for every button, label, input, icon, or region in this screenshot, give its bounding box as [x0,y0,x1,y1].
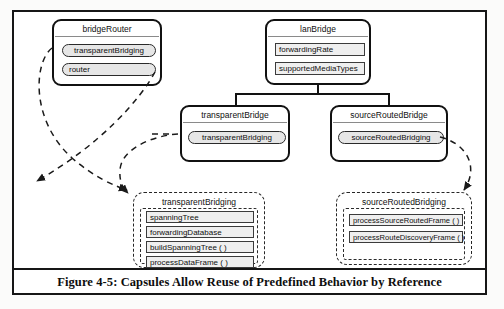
capsule-member-processSourceRoutedFrame[interactable]: processSourceRoutedFrame ( ) [349,214,463,226]
capsule-member-forwardingDatabase[interactable]: forwardingDatabase [146,226,254,238]
attribute-supportedMediaTypes[interactable]: supportedMediaTypes [275,62,365,75]
figure-page: bridgeRouter transparentBridging router … [0,0,504,309]
port-sourceRoutedBridging[interactable]: sourceRoutedBridging [338,131,444,144]
capsule-member-spanningTree[interactable]: spanningTree [146,211,254,223]
class-sourceRoutedBridge[interactable]: sourceRoutedBridge sourceRoutedBridging [330,105,448,162]
class-divider [268,36,368,37]
class-title-lanBridge: lanBridge [267,21,369,36]
capsule-member-processDataFrame[interactable]: processDataFrame ( ) [146,256,254,268]
attribute-forwardingRate[interactable]: forwardingRate [275,43,365,56]
port-transparentBridging-sub[interactable]: transparentBridging [188,131,286,144]
generalization-branch-right [388,93,390,105]
figure-caption: Figure 4-5: Capsules Allow Reuse of Pred… [12,270,487,295]
generalization-branch-left [235,93,237,105]
class-title-sourceRoutedBridge: sourceRoutedBridge [332,107,446,122]
generalization-crossbar [235,93,389,95]
class-divider [333,122,445,123]
class-transparentBridge[interactable]: transparentBridge transparentBridging [180,105,290,162]
class-title-bridgeRouter: bridgeRouter [54,21,160,36]
class-divider [183,122,287,123]
capsule-title-sourceRoutedBridging: sourceRoutedBridging [337,195,471,208]
capsule-transparentBridging[interactable]: transparentBridging spanningTree forward… [133,192,265,268]
port-router[interactable]: router [62,63,156,76]
class-title-transparentBridge: transparentBridge [182,107,288,122]
capsule-title-transparentBridging: transparentBridging [134,195,264,208]
port-transparentBridging[interactable]: transparentBridging [62,44,156,57]
capsule-member-processRouteDiscoveryFrame[interactable]: processRouteDiscoveryFrame ( ) [349,231,463,243]
class-bridgeRouter[interactable]: bridgeRouter transparentBridging router [52,19,162,86]
class-divider [55,36,159,37]
capsule-member-buildSpanningTree[interactable]: buildSpanningTree ( ) [146,241,254,253]
class-lanBridge[interactable]: lanBridge forwardingRate supportedMediaT… [265,19,371,85]
capsule-sourceRoutedBridging[interactable]: sourceRoutedBridging processSourceRouted… [336,192,472,265]
